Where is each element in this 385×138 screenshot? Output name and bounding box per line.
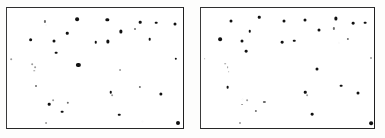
left-panel-plot-area	[6, 7, 184, 129]
data-point	[75, 17, 79, 21]
data-point	[335, 17, 338, 20]
data-point	[333, 27, 335, 29]
data-point	[293, 40, 296, 43]
data-point	[218, 37, 222, 41]
data-point	[139, 86, 141, 88]
data-point	[34, 66, 36, 68]
data-point	[304, 18, 307, 21]
data-point	[109, 91, 112, 94]
data-point	[66, 32, 69, 35]
data-point	[230, 19, 233, 22]
data-point	[364, 21, 367, 24]
data-point	[119, 69, 121, 71]
data-point	[105, 18, 108, 21]
data-point	[283, 19, 286, 22]
data-point	[176, 121, 180, 125]
data-point	[32, 64, 34, 66]
data-point	[76, 63, 80, 67]
data-point	[347, 38, 349, 40]
data-point	[112, 94, 114, 96]
data-point	[54, 51, 57, 54]
data-point	[155, 21, 158, 24]
right-panel-plot-area	[200, 7, 375, 129]
data-point	[29, 38, 33, 42]
data-point	[315, 67, 318, 70]
data-point	[227, 66, 229, 68]
data-point	[306, 94, 308, 96]
data-point	[281, 41, 284, 44]
data-point	[249, 30, 252, 33]
data-point	[318, 29, 321, 32]
figure-root	[0, 0, 385, 138]
data-point	[224, 63, 226, 65]
data-point	[45, 123, 47, 125]
data-point	[239, 122, 241, 124]
data-point	[35, 85, 37, 87]
data-point	[226, 86, 229, 89]
data-point	[340, 84, 343, 87]
data-point	[175, 57, 177, 59]
data-point	[352, 22, 355, 25]
data-point	[139, 21, 142, 24]
data-point	[255, 110, 257, 112]
data-point	[370, 57, 372, 59]
data-point	[52, 99, 54, 101]
data-point	[311, 113, 314, 116]
data-point	[263, 101, 265, 103]
data-point	[95, 41, 98, 44]
data-point	[228, 71, 230, 73]
data-point	[241, 104, 243, 106]
data-point	[118, 113, 121, 116]
data-point	[33, 70, 35, 72]
data-point	[245, 50, 248, 53]
data-point	[119, 30, 122, 33]
data-point	[258, 16, 261, 19]
data-point	[369, 121, 373, 125]
data-point	[357, 92, 360, 95]
data-point	[53, 40, 56, 43]
data-point	[61, 110, 64, 113]
data-point	[106, 40, 109, 43]
data-point	[246, 99, 248, 101]
data-point	[148, 38, 151, 41]
data-point	[159, 92, 162, 95]
data-point	[304, 91, 307, 94]
left-panel	[6, 7, 184, 129]
data-point	[67, 102, 69, 104]
data-point	[174, 22, 177, 25]
data-point	[48, 103, 51, 106]
data-point	[11, 58, 13, 60]
data-point	[44, 20, 46, 22]
right-panel	[200, 7, 375, 129]
data-point	[204, 58, 206, 60]
data-point	[134, 28, 136, 30]
data-point	[241, 39, 244, 42]
